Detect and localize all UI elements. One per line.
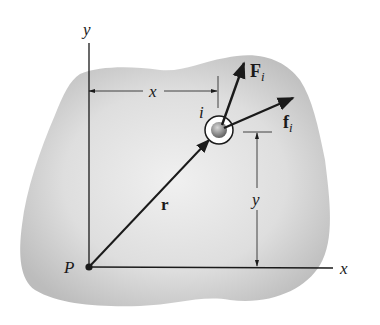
origin-point [85,263,92,270]
y-dimension-label: y [250,190,260,209]
particle-label: i [199,103,204,122]
x-axis-label: x [339,259,348,278]
x-dimension-label: x [148,82,157,101]
origin-label: P [63,258,74,277]
rigid-body-diagram: y x x y r i Fi fi P [0,0,380,325]
particle-sphere [211,122,227,138]
y-axis-label: y [81,20,91,39]
position-vector-label: r [161,195,169,214]
